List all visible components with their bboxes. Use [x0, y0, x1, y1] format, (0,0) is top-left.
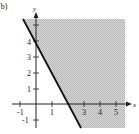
inequality-graph: (b) x -1 1 3 4 5 y -1 1 2 3 4	[0, 0, 139, 134]
y-tick-label: 3	[27, 53, 31, 62]
x-tick-label: 3	[82, 108, 86, 117]
y-axis-label: y	[32, 5, 37, 13]
y-tick-label: 2	[27, 69, 31, 78]
y-tick-label: 4	[27, 38, 31, 47]
shaded-region	[23, 19, 125, 128]
x-axis-arrow-icon	[126, 102, 132, 107]
y-tick-label: -1	[22, 116, 29, 125]
x-axis-label: x	[132, 101, 137, 109]
x-tick-label: 4	[98, 108, 102, 117]
x-tick-label: 1	[50, 108, 54, 117]
y-tick-label: 1	[27, 85, 31, 94]
x-tick-label: 5	[114, 108, 118, 117]
figure-label: (b)	[0, 2, 8, 11]
